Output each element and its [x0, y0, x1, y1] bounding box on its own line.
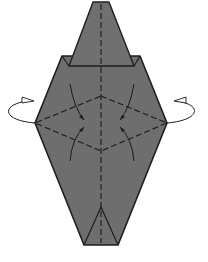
origami-diagram	[0, 0, 208, 262]
turn-over-arrow-left	[9, 97, 35, 123]
hollow-arrowhead-icon	[22, 97, 34, 103]
turn-over-arrow-right	[167, 97, 194, 123]
diagram-canvas	[0, 0, 208, 262]
hollow-arrowhead-icon	[174, 97, 186, 103]
